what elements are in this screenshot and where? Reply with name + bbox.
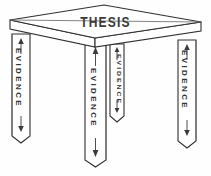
leg-right (178, 40, 196, 148)
tabletop (10, 5, 201, 47)
leg-back (110, 44, 124, 122)
figure-canvas: THESIS EVIDENCE EVIDENCE EVIDENCE EVIDEN… (0, 0, 211, 176)
table-line-drawing (0, 0, 211, 176)
leg-left (12, 34, 30, 143)
leg-front (85, 44, 106, 167)
